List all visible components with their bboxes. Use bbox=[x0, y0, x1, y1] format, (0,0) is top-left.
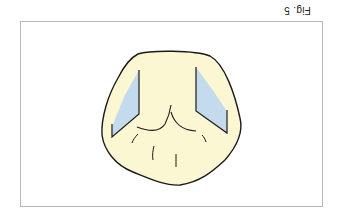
tooth-diagram bbox=[0, 0, 339, 217]
